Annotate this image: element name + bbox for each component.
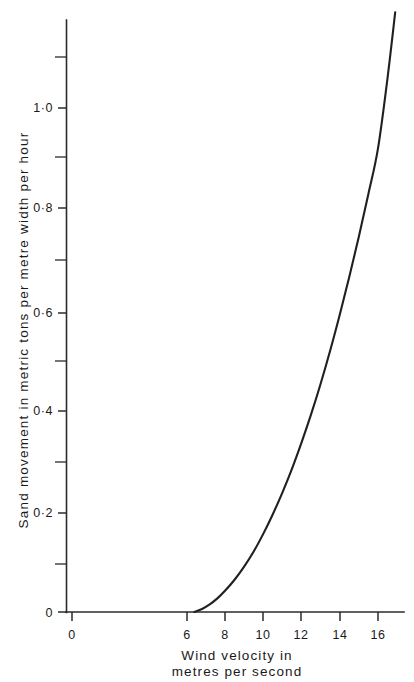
x-tick-label-14: 14 — [332, 628, 347, 642]
y-tick-label-0-2: 0·2 — [33, 506, 53, 520]
x-tick-label-8: 8 — [221, 628, 229, 642]
sand-movement-curve — [194, 12, 395, 612]
y-axis-label: Sand movement in metric tons per metre w… — [16, 132, 31, 529]
x-axis-major-ticks — [72, 612, 378, 621]
x-tick-label-12: 12 — [293, 628, 308, 642]
x-tick-label-0: 0 — [68, 628, 76, 642]
x-axis-label-line-1: Wind velocity in — [181, 648, 292, 663]
sand-movement-chart: 1·0 0·8 0·6 0·4 0·2 0 0 6 8 10 12 14 16 … — [0, 0, 414, 682]
y-tick-label-0: 0 — [45, 606, 53, 620]
y-tick-label-0-4: 0·4 — [33, 404, 53, 418]
x-axis-label-line-2: metres per second — [172, 664, 303, 679]
y-axis-major-ticks — [58, 108, 66, 612]
y-axis-minor-ticks — [55, 57, 66, 564]
chart-figure: 1·0 0·8 0·6 0·4 0·2 0 0 6 8 10 12 14 16 … — [0, 0, 414, 682]
y-tick-label-1-0: 1·0 — [33, 101, 53, 115]
x-tick-label-10: 10 — [255, 628, 270, 642]
y-tick-label-0-8: 0·8 — [33, 201, 53, 215]
x-tick-label-16: 16 — [370, 628, 385, 642]
y-tick-label-0-6: 0·6 — [33, 306, 53, 320]
x-tick-label-6: 6 — [183, 628, 191, 642]
